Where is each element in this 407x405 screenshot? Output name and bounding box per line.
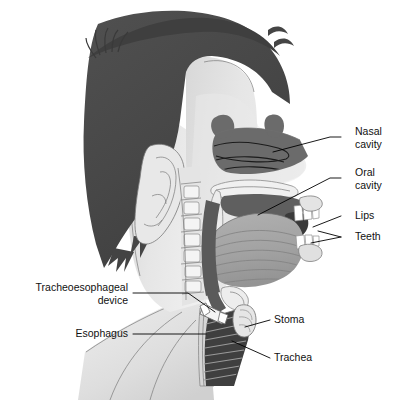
stoma-opening	[233, 305, 256, 337]
label-trachea: Trachea	[274, 351, 312, 363]
label-lips: Lips	[355, 209, 374, 221]
label-oral-cavity-line2: cavity	[355, 179, 383, 191]
cervical-spine	[178, 166, 204, 306]
label-te-device-line1: Tracheoesophageal	[36, 281, 128, 293]
label-te-device-line2: device	[98, 294, 129, 306]
label-oral-cavity-line1: Oral	[355, 166, 375, 178]
label-teeth: Teeth	[355, 230, 381, 242]
label-nasal-cavity-line2: cavity	[355, 138, 383, 150]
anatomy-figure: Nasal cavity Oral cavity Lips Teeth Stom…	[0, 0, 407, 405]
label-nasal-cavity-line1: Nasal	[355, 125, 382, 137]
label-stoma: Stoma	[274, 313, 305, 325]
label-esophagus: Esophagus	[75, 327, 128, 339]
anatomy-illustration: Nasal cavity Oral cavity Lips Teeth Stom…	[0, 0, 407, 405]
